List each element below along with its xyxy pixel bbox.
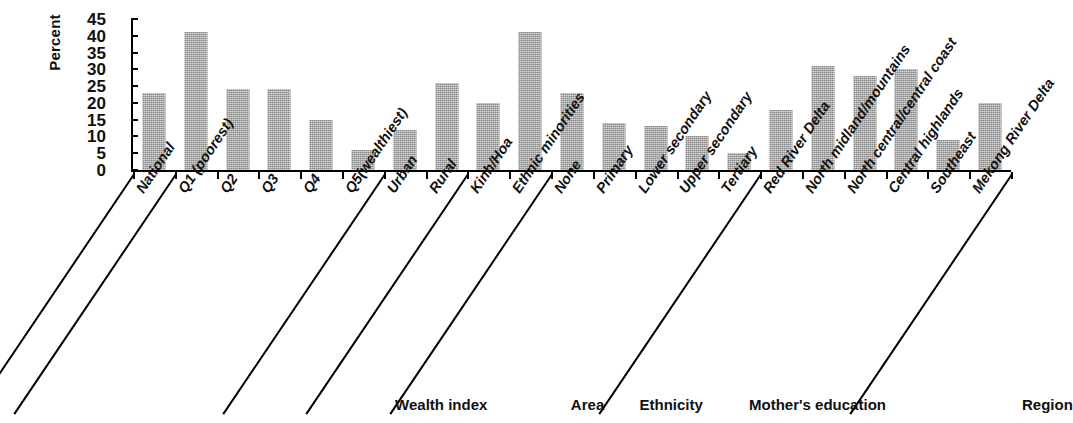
bar-slot: [384, 19, 426, 170]
group-label: Wealth index: [395, 396, 487, 413]
group-separator-line: [598, 174, 761, 415]
x-tick-mark: [969, 172, 971, 179]
x-tick-mark: [258, 172, 260, 179]
x-tick-mark: [300, 172, 302, 179]
x-category-label: Q4: [300, 171, 324, 196]
y-tick-label: 10: [87, 128, 106, 145]
bar-slot: [426, 19, 468, 170]
y-tick-label: 0: [97, 162, 106, 179]
bar-slot: [300, 19, 342, 170]
y-axis-tick-labels: 051015202530354045: [60, 0, 106, 200]
group-separator-line: [13, 174, 176, 415]
x-tick-mark: [635, 172, 637, 179]
bar[interactable]: [268, 89, 291, 170]
x-tick-mark: [509, 172, 511, 179]
y-tick-label: 20: [87, 94, 106, 111]
x-tick-mark: [677, 172, 679, 179]
x-category-label: Q2: [216, 171, 240, 196]
y-tick-label: 15: [87, 111, 106, 128]
y-tick-label: 40: [87, 27, 106, 44]
group-label: Region: [1022, 396, 1073, 413]
group-separator-line: [0, 174, 134, 415]
group-separator-line: [389, 174, 552, 415]
x-tick-mark: [927, 172, 929, 179]
y-tick-label: 25: [87, 78, 106, 95]
group-separator-line: [222, 174, 385, 415]
bar[interactable]: [310, 120, 333, 170]
group-label: Mother's education: [749, 396, 886, 413]
x-tick-mark: [342, 172, 344, 179]
group-label: Ethnicity: [639, 396, 702, 413]
bar-slot: [217, 19, 259, 170]
y-tick-label: 45: [87, 11, 106, 28]
y-tick-label: 35: [87, 44, 106, 61]
x-tick-mark: [844, 172, 846, 179]
x-tick-mark: [802, 172, 804, 179]
x-tick-mark: [886, 172, 888, 179]
x-category-label: Q3: [258, 171, 282, 196]
group-separator-line: [849, 174, 1012, 415]
x-tick-mark: [217, 172, 219, 179]
x-tick-mark: [426, 172, 428, 179]
y-tick-label: 5: [97, 145, 106, 162]
x-tick-mark: [593, 172, 595, 179]
y-tick-label: 30: [87, 61, 106, 78]
bar-slot: [258, 19, 300, 170]
x-tick-mark: [718, 172, 720, 179]
group-label: Area: [571, 396, 604, 413]
group-separator-line: [306, 174, 469, 415]
